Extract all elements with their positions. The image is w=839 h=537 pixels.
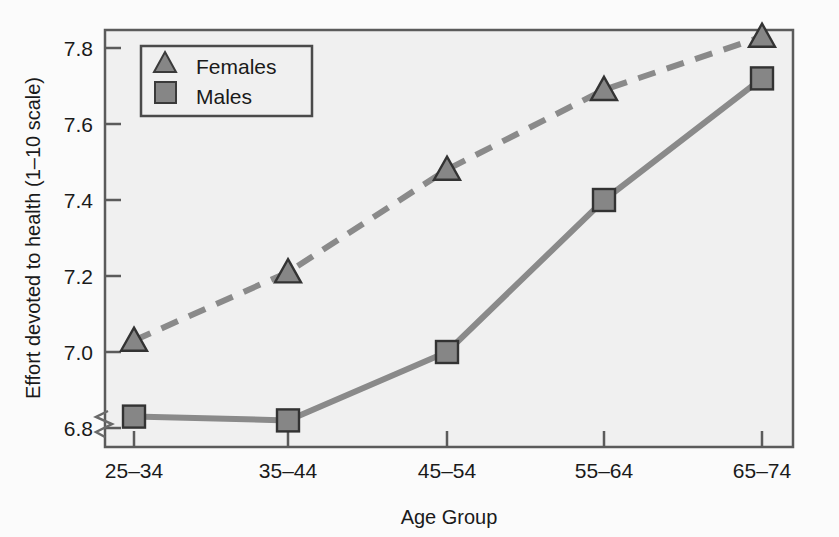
y-tick-label: 6.8 (64, 417, 93, 440)
x-tick-label: 25–34 (105, 459, 164, 482)
y-tick-label: 7.0 (64, 341, 93, 364)
y-tick-label: 7.8 (64, 37, 93, 60)
x-tick-label: 65–74 (733, 459, 792, 482)
legend-label-males: Males (196, 85, 252, 108)
y-axis-tick-labels: 6.87.07.27.47.67.8 (64, 37, 94, 440)
y-tick-label: 7.2 (64, 265, 93, 288)
chart-figure: 6.87.07.27.47.67.8 25–3435–4445–5455–646… (0, 0, 839, 537)
data-point-square (751, 67, 773, 89)
legend-label-females: Females (196, 55, 277, 78)
data-point-square (277, 409, 299, 431)
y-tick-label: 7.6 (64, 113, 93, 136)
data-point-square (436, 341, 458, 363)
x-axis-title: Age Group (401, 506, 498, 528)
chart-legend: Females Males (141, 46, 312, 116)
legend-square-marker (155, 82, 176, 103)
line-chart-svg: 6.87.07.27.47.67.8 25–3435–4445–5455–646… (0, 0, 839, 537)
y-axis-title: Effort devoted to health (1–10 scale) (22, 77, 44, 399)
y-tick-label: 7.4 (64, 189, 94, 212)
x-tick-label: 55–64 (575, 459, 634, 482)
x-axis-tick-labels: 25–3435–4445–5455–6465–74 (105, 459, 792, 482)
data-point-square (593, 189, 615, 211)
data-point-square (123, 406, 145, 428)
x-tick-label: 35–44 (259, 459, 318, 482)
x-tick-label: 45–54 (418, 459, 477, 482)
